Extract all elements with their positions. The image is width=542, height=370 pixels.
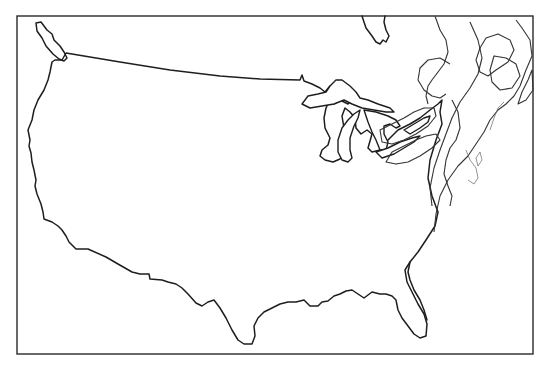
map-frame — [17, 16, 533, 354]
outline-map — [0, 0, 542, 370]
